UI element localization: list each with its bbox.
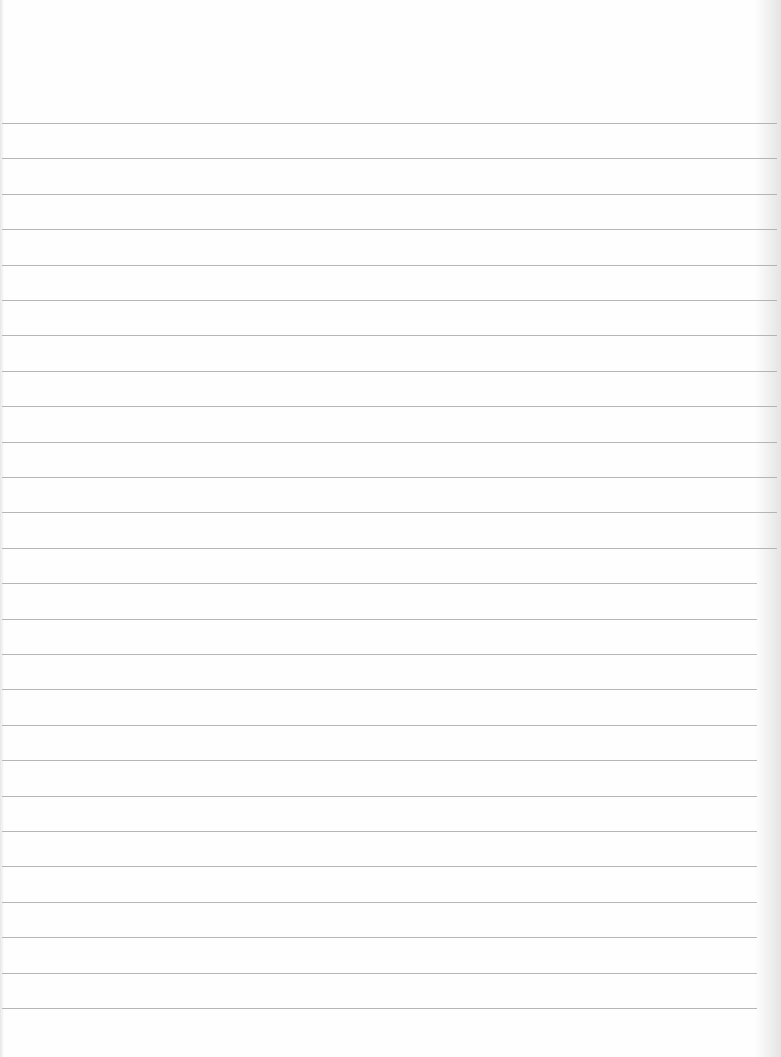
ruled-line xyxy=(2,866,757,867)
ruled-line xyxy=(2,725,757,726)
ruled-line xyxy=(2,371,777,372)
ruled-line xyxy=(2,831,757,832)
ruled-line xyxy=(2,477,777,478)
ruled-line xyxy=(2,1008,757,1009)
ruled-line xyxy=(2,335,777,336)
ruled-line xyxy=(2,548,777,549)
ruled-line xyxy=(2,937,757,938)
ruled-line xyxy=(2,300,777,301)
ruled-line xyxy=(2,689,757,690)
ruled-line xyxy=(2,512,777,513)
ruled-line xyxy=(2,158,777,159)
ruled-line xyxy=(2,442,777,443)
ruled-line xyxy=(2,973,757,974)
ruled-line xyxy=(2,902,757,903)
ruled-line xyxy=(2,760,757,761)
ruled-line xyxy=(2,265,777,266)
ruled-line xyxy=(2,229,777,230)
ruled-line xyxy=(2,406,777,407)
ruled-line xyxy=(2,654,757,655)
ruled-line xyxy=(2,583,757,584)
ruled-line xyxy=(2,194,777,195)
ruled-paper-sheet xyxy=(0,0,781,1057)
ruled-line xyxy=(2,619,757,620)
ruled-line xyxy=(2,796,757,797)
ruled-line xyxy=(2,123,777,124)
